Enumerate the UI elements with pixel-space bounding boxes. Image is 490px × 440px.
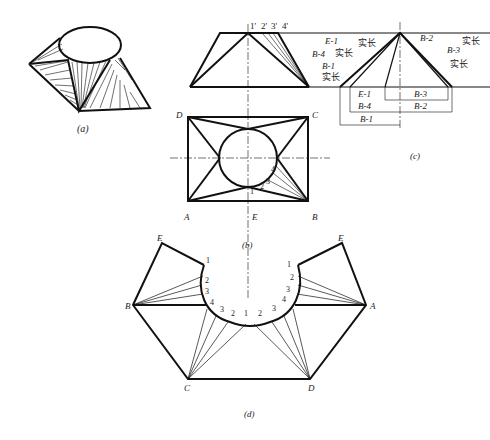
corner-e: E: [251, 212, 258, 222]
bottom-arc-1: 1: [244, 309, 248, 318]
view-b-top: D C A E B (b) 1 2 3 4: [170, 110, 330, 250]
point-1-prime: 1': [250, 21, 257, 31]
point-2-prime: 2': [261, 21, 268, 31]
dim-b2: B-2: [414, 101, 427, 111]
label-b3: B-3: [447, 45, 460, 55]
circle-point-3: 3: [266, 177, 270, 186]
label-e1: E-1: [324, 36, 338, 46]
label-b: (b): [242, 240, 253, 250]
vertex-c: C: [184, 383, 191, 393]
view-a-isometric: (a): [29, 27, 150, 135]
label-b1: B-1: [322, 61, 335, 71]
left-arc-1: 1: [206, 256, 210, 265]
corner-b: B: [312, 212, 318, 222]
bottom-arc-2b: 2: [258, 309, 262, 318]
diagram-canvas: (a) 1' 2' 3' 4': [0, 0, 490, 440]
true-length-label-1: 实长: [358, 37, 376, 48]
technical-drawing: (a) 1' 2' 3' 4': [0, 0, 490, 440]
vertex-a: A: [369, 301, 376, 311]
circle-point-2: 2: [260, 182, 264, 191]
label-b4: B-4: [312, 49, 325, 59]
label-c: (c): [410, 151, 420, 161]
left-arc-4: 4: [210, 298, 214, 307]
label-a: (a): [77, 123, 89, 135]
label-b2: B-2: [420, 33, 433, 43]
dim-b3: B-3: [414, 89, 427, 99]
corner-c: C: [312, 110, 319, 120]
point-4-prime: 4': [282, 21, 289, 31]
corner-d: D: [175, 110, 183, 120]
label-d: (d): [244, 409, 255, 419]
corner-a: A: [183, 212, 190, 222]
true-length-label-5: 实长: [450, 58, 468, 69]
right-arc-4: 4: [282, 295, 286, 304]
view-d-development: E E B A C D (d) 1 2 3 4 3 2 1 2 3 1 2 3 …: [125, 233, 376, 419]
vertex-e-right: E: [337, 233, 344, 243]
bottom-arc-2a: 2: [231, 309, 235, 318]
circle-point-1: 1: [250, 187, 254, 196]
bottom-arc-3a: 3: [220, 305, 224, 314]
point-3-prime: 3': [271, 21, 278, 31]
dim-e1: E-1: [357, 89, 371, 99]
true-length-label-2: 实长: [335, 47, 353, 58]
left-arc-3: 3: [205, 287, 209, 296]
true-length-label-3: 实长: [322, 71, 340, 82]
circle-point-4: 4: [271, 165, 275, 174]
bottom-arc-3b: 3: [272, 304, 276, 313]
right-arc-2: 2: [290, 273, 294, 282]
vertex-d: D: [307, 383, 315, 393]
true-length-label-4: 实长: [462, 35, 480, 46]
right-arc-1: 1: [287, 260, 291, 269]
dim-b4: B-4: [358, 101, 371, 111]
dim-b1: B-1: [360, 114, 373, 124]
view-c-true-length: 实长 实长 实长 实长 实长 E-1 B-4 B-1 B-2 B-3 E-1 B…: [312, 22, 480, 161]
right-arc-3: 3: [286, 285, 290, 294]
vertex-e-left: E: [156, 233, 163, 243]
front-view: 1' 2' 3' 4': [190, 21, 490, 300]
left-arc-2: 2: [205, 276, 209, 285]
vertex-b: B: [125, 301, 131, 311]
